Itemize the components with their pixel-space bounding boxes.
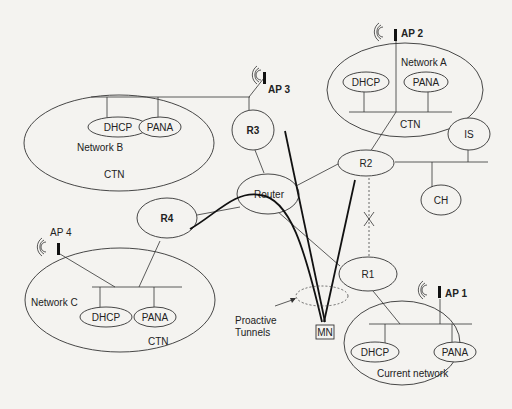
mobile-node-label: MN bbox=[317, 327, 333, 338]
network-a-label: Network A bbox=[401, 57, 447, 68]
ch-label: CH bbox=[434, 195, 448, 206]
router-r3-label: R3 bbox=[247, 125, 260, 136]
network-diagram: DHCP PANA Network B CTN AP 3 DHCP PANA N… bbox=[0, 0, 512, 409]
ap3: AP 3 bbox=[249, 66, 290, 97]
ap4: AP 4 bbox=[37, 227, 72, 256]
network-a-dhcp-label: DHCP bbox=[352, 77, 381, 88]
current-network: DHCP PANA Current network bbox=[344, 291, 476, 385]
ap3-label: AP 3 bbox=[268, 84, 290, 95]
network-c-ctn-label: CTN bbox=[148, 336, 169, 347]
network-b: DHCP PANA Network B CTN bbox=[24, 95, 250, 191]
current-pana-label: PANA bbox=[442, 347, 469, 358]
current-dhcp-label: DHCP bbox=[361, 347, 390, 358]
ap4-label: AP 4 bbox=[50, 227, 72, 238]
antenna-icon bbox=[37, 238, 60, 256]
ap2-label: AP 2 bbox=[401, 28, 423, 39]
network-b-pana-label: PANA bbox=[147, 122, 174, 133]
ap2: AP 2 bbox=[374, 23, 423, 41]
network-b-label: Network B bbox=[77, 142, 123, 153]
current-network-label: Current network bbox=[377, 368, 449, 379]
tunnel-region bbox=[296, 286, 348, 306]
antenna-icon bbox=[374, 23, 397, 41]
tunnels-label-line2: Tunnels bbox=[235, 327, 270, 338]
router-r4-label: R4 bbox=[161, 213, 174, 224]
proactive-tunnels bbox=[190, 131, 355, 322]
network-c-pana-label: PANA bbox=[142, 312, 169, 323]
network-b-dhcp-label: DHCP bbox=[104, 122, 133, 133]
network-a-ctn-label: CTN bbox=[400, 119, 421, 130]
ap1-label: AP 1 bbox=[445, 288, 467, 299]
network-c: DHCP PANA Network C CTN bbox=[25, 241, 215, 352]
antenna-icon bbox=[418, 281, 441, 299]
antenna-icon bbox=[252, 66, 266, 84]
router-r1-label: R1 bbox=[362, 269, 375, 280]
router-r2-label: R2 bbox=[360, 158, 373, 169]
is-label: IS bbox=[464, 129, 474, 140]
network-c-label: Network C bbox=[31, 297, 78, 308]
network-c-dhcp-label: DHCP bbox=[92, 312, 121, 323]
tunnels-label-line1: Proactive bbox=[235, 315, 277, 326]
ap1: AP 1 bbox=[418, 281, 467, 299]
network-b-ctn-label: CTN bbox=[104, 169, 125, 180]
network-a-pana-label: PANA bbox=[413, 77, 440, 88]
